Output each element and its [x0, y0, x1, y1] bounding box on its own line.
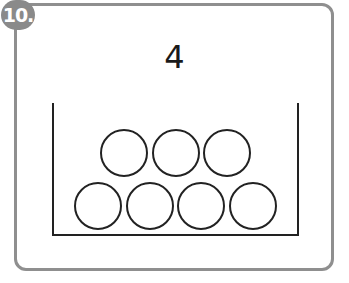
bottom-row-circles	[75, 183, 276, 229]
circle	[153, 130, 199, 176]
top-row-circles	[101, 130, 250, 176]
circle	[204, 130, 250, 176]
container-outline	[53, 103, 298, 235]
circle	[230, 183, 276, 229]
circle	[178, 183, 224, 229]
circle	[101, 130, 147, 176]
container-illustration	[0, 0, 349, 283]
circle	[75, 183, 121, 229]
circle	[127, 183, 173, 229]
